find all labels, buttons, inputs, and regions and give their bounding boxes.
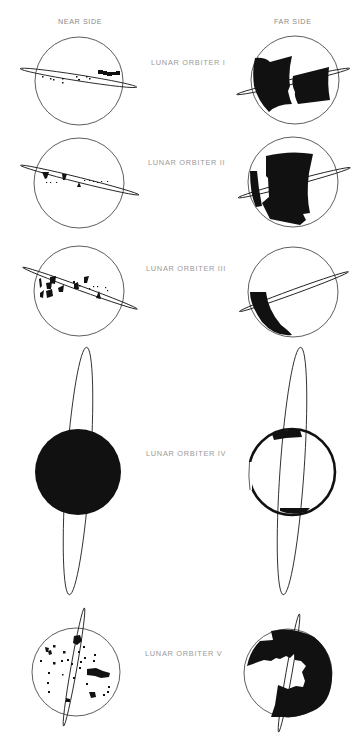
coverage-diagram [0,0,362,746]
orbiter-4-near-side [35,346,121,595]
orbiter-5-far-side [244,613,332,732]
orbiter-3-far-side [239,247,350,337]
orbiter-4-far-side [246,346,335,595]
orbiter-5-near-side [32,607,120,726]
orbiter-1-far-side [236,36,350,124]
orbiter-2-near-side [20,138,140,228]
orbiter-1-near-side [20,37,137,125]
orbiter-3-near-side [22,246,138,336]
orbiter-2-far-side [238,137,351,227]
